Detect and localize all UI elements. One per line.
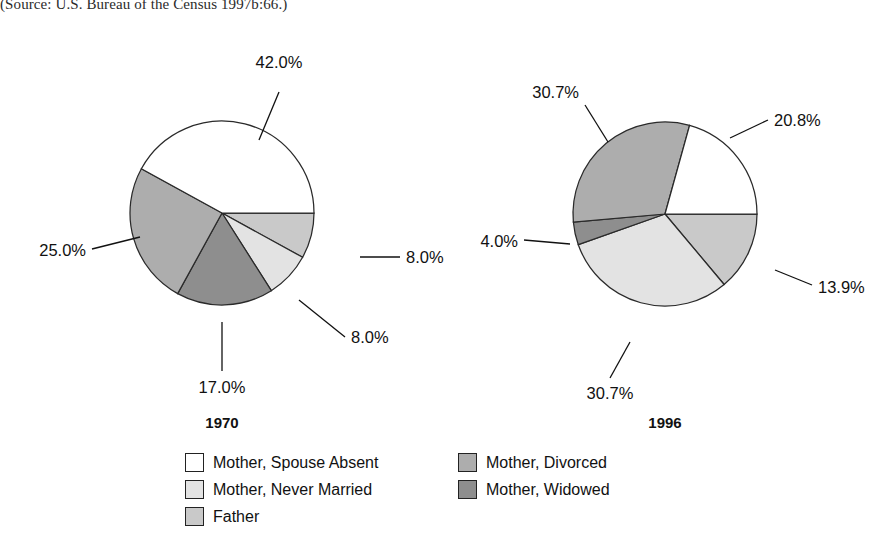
slice-percent-label: 8.0% (406, 248, 444, 266)
slice-leader-line (585, 105, 608, 142)
pie-year-label: 1970 (205, 414, 238, 431)
slice-leader-line (775, 270, 812, 285)
pie-year-label: 1996 (648, 414, 681, 431)
legend-item-label: Mother, Never Married (213, 482, 372, 498)
slice-percent-label: 17.0% (199, 378, 246, 396)
legend-item[interactable]: Mother, Never Married (185, 477, 378, 502)
slice-percent-label: 4.0% (480, 232, 518, 250)
legend-item-label: Father (213, 509, 259, 525)
legend-item[interactable]: Mother, Widowed (458, 477, 610, 502)
legend-item[interactable]: Father (185, 504, 378, 529)
slice-leader-line (259, 92, 279, 140)
slice-percent-label: 30.7% (587, 384, 634, 402)
slice-percent-label: 13.9% (818, 278, 865, 296)
slice-percent-label: 20.8% (774, 111, 821, 129)
slice-leader-line (610, 342, 630, 378)
legend-item-label: Mother, Divorced (486, 455, 607, 471)
legend-swatch-icon (458, 453, 477, 472)
slice-percent-label: 25.0% (39, 241, 86, 259)
slice-percent-label: 42.0% (256, 53, 303, 71)
legend-swatch-icon (185, 507, 204, 526)
slice-leader-line (524, 240, 570, 244)
pie-chart-area: 8.0%8.0%17.0%25.0%42.0%197013.9%30.7%4.0… (0, 0, 881, 440)
slice-leader-line (92, 237, 140, 249)
legend-item[interactable]: Mother, Spouse Absent (185, 450, 378, 475)
slice-leader-line (299, 300, 345, 337)
slice-leader-line (730, 120, 768, 138)
legend-item-label: Mother, Widowed (486, 482, 610, 498)
legend-item-label: Mother, Spouse Absent (213, 455, 378, 471)
slice-percent-label: 30.7% (532, 83, 579, 101)
legend-swatch-icon (185, 453, 204, 472)
pie-charts-svg: 8.0%8.0%17.0%25.0%42.0%197013.9%30.7%4.0… (0, 0, 881, 440)
legend-swatch-icon (185, 480, 204, 499)
legend-item[interactable]: Mother, Divorced (458, 450, 610, 475)
slice-percent-label: 8.0% (351, 328, 389, 346)
pie-chart-1970: 8.0%8.0%17.0%25.0%42.0%1970 (39, 53, 444, 431)
pie-chart-1996: 13.9%30.7%4.0%30.7%20.8%1996 (480, 83, 865, 431)
legend-column-right: Mother, DivorcedMother, Widowed (458, 450, 610, 504)
legend-column-left: Mother, Spouse AbsentMother, Never Marri… (185, 450, 378, 531)
legend-swatch-icon (458, 480, 477, 499)
